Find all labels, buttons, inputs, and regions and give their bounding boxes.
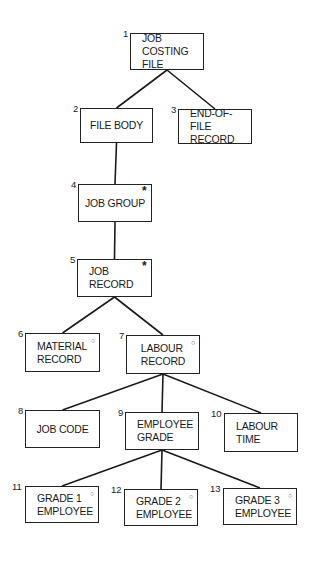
node-box-2: FILE BODY	[80, 108, 153, 143]
node-number: 7	[119, 331, 124, 341]
node-label: LABOUR RECORD	[141, 342, 185, 368]
node-label: LABOUR TIME	[236, 420, 278, 446]
node-box-7: LABOUR RECORD	[126, 335, 200, 374]
selection-circle-icon: ○	[288, 491, 292, 500]
node-number: 12	[111, 485, 122, 495]
node-number: 1	[123, 29, 128, 39]
edge-5-6	[63, 297, 115, 333]
edge-7-9	[162, 374, 163, 412]
connector-lines	[0, 0, 313, 561]
node-box-5: JOB RECORD	[77, 259, 152, 297]
edge-9-11	[62, 450, 162, 486]
node-number: 8	[18, 406, 23, 416]
node-label: JOB CODE	[36, 423, 88, 436]
node-label: JOB COSTING FILE	[142, 32, 203, 71]
node-number: 13	[210, 484, 221, 494]
node-number: 3	[171, 105, 176, 115]
node-label: MATERIAL RECORD	[37, 340, 87, 366]
selection-circle-icon: ○	[189, 492, 193, 501]
node-box-4: JOB GROUP	[78, 184, 152, 222]
node-label: EMPLOYEE GRADE	[137, 418, 193, 444]
node-number: 4	[71, 180, 76, 190]
edge-7-8	[63, 374, 164, 410]
node-box-11: GRADE 1 EMPLOYEE	[25, 486, 99, 523]
node-box-13: GRADE 3 EMPLOYEE	[223, 488, 297, 525]
node-number: 5	[70, 255, 75, 265]
iteration-asterisk-icon: *	[142, 262, 147, 271]
node-label: GRADE 2 EMPLOYEE	[136, 495, 192, 521]
edge-9-12	[161, 450, 162, 489]
node-box-6: MATERIAL RECORD	[25, 333, 100, 372]
node-label: GRADE 3 EMPLOYEE	[235, 494, 291, 520]
node-number: 9	[118, 408, 123, 418]
selection-circle-icon: ○	[91, 336, 95, 345]
selection-circle-icon: ○	[191, 338, 195, 347]
node-label: GRADE 1 EMPLOYEE	[37, 492, 93, 518]
node-box-1: JOB COSTING FILE	[130, 33, 204, 70]
node-label: JOB GROUP	[85, 197, 145, 210]
edge-4-5	[115, 222, 116, 259]
selection-circle-icon: ○	[90, 489, 94, 498]
node-box-9: EMPLOYEE GRADE	[125, 412, 199, 450]
node-box-12: GRADE 2 EMPLOYEE	[124, 489, 198, 526]
node-label: END-OF-FILE RECORD	[190, 107, 251, 146]
edge-2-4	[115, 143, 117, 184]
edge-1-2	[117, 70, 168, 108]
node-box-8: JOB CODE	[25, 410, 100, 448]
node-number: 6	[18, 329, 23, 339]
iteration-asterisk-icon: *	[142, 187, 147, 196]
node-box-3: END-OF-FILE RECORD	[178, 109, 252, 144]
node-label: JOB RECORD	[89, 265, 133, 291]
node-box-10: LABOUR TIME	[224, 413, 298, 452]
node-number: 2	[73, 104, 78, 114]
node-number: 10	[211, 409, 222, 419]
node-label: FILE BODY	[90, 119, 143, 132]
node-number: 11	[12, 482, 22, 492]
